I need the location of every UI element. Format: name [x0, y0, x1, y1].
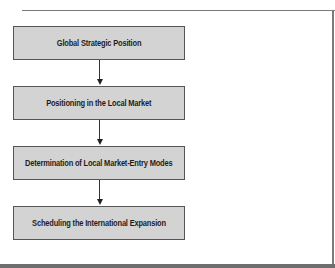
arrow-down-icon [99, 120, 101, 146]
arrow-down-icon [99, 180, 101, 206]
arrow-head [97, 79, 103, 85]
step-box-global-strategic-position: Global Strategic Position [13, 26, 185, 60]
step-box-market-entry-modes: Determination of Local Market-Entry Mode… [13, 146, 185, 180]
arrow-down-icon [99, 60, 101, 86]
arrow-head [97, 139, 103, 145]
frame-right-border [332, 10, 334, 266]
frame-bottom-border [0, 264, 335, 268]
step-label: Global Strategic Position [57, 38, 142, 48]
step-label: Scheduling the International Expansion [32, 218, 166, 228]
frame-top-border [22, 10, 335, 11]
step-box-scheduling-expansion: Scheduling the International Expansion [13, 206, 185, 240]
step-box-positioning-local-market: Positioning in the Local Market [13, 86, 185, 120]
step-label: Positioning in the Local Market [46, 98, 151, 108]
arrow-head [97, 199, 103, 205]
step-label: Determination of Local Market-Entry Mode… [25, 158, 172, 168]
